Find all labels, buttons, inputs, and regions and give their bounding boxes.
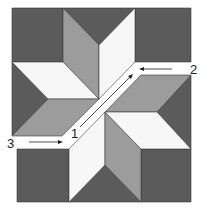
corner-square-top-left (12, 8, 63, 62)
quilt-block-diagram: 1 2 3 (0, 0, 205, 212)
arrow-3-head (58, 140, 63, 144)
corner-square-bottom-left (17, 149, 69, 202)
corner-square-top-right (135, 8, 191, 62)
corner-square-bottom-right (141, 149, 191, 202)
step-label-3: 3 (7, 136, 14, 151)
step-label-2: 2 (190, 62, 197, 77)
step-label-1: 1 (71, 126, 78, 141)
arrow-2-head (139, 67, 144, 71)
